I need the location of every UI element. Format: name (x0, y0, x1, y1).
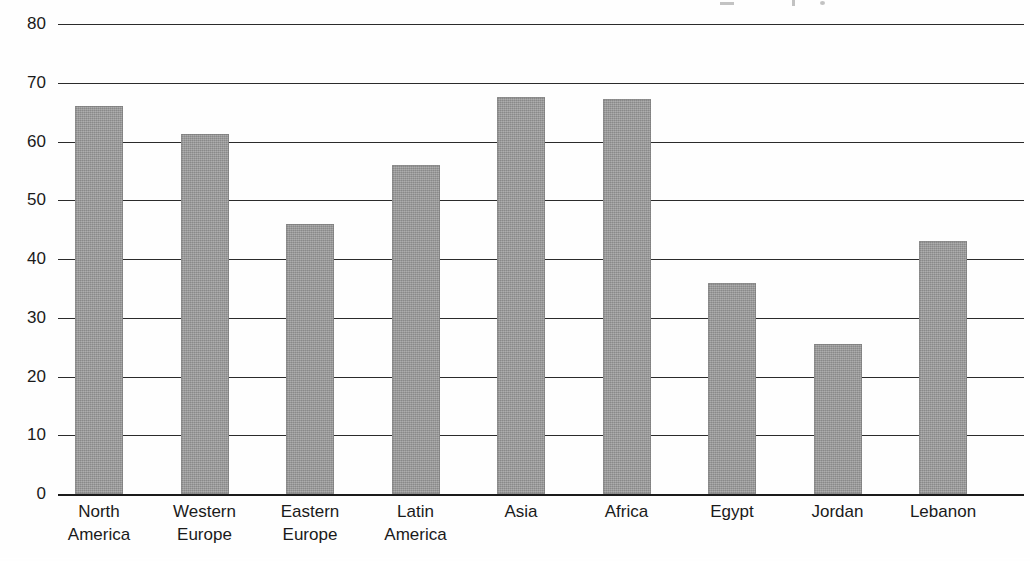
x-tick-label-line1: Jordan (812, 502, 864, 521)
y-tick-label-10: 10 (4, 426, 46, 443)
x-tick-label: Africa (567, 500, 687, 523)
scan-mark-dash (720, 2, 734, 5)
bar (286, 224, 334, 494)
scan-mark-dot (820, 1, 825, 5)
x-tick-label-line2: Europe (145, 523, 265, 546)
bar (181, 134, 229, 494)
y-tick-label-40: 40 (4, 250, 46, 267)
x-tick-label: Asia (461, 500, 581, 523)
x-tick-label-line1: Latin (397, 502, 434, 521)
bar-chart: 01020304050607080 NorthAmericaWesternEur… (0, 0, 1030, 561)
bars-layer (58, 24, 1024, 494)
scan-artifact-marks (700, 0, 940, 10)
x-axis-category-labels: NorthAmericaWesternEuropeEasternEuropeLa… (58, 500, 1024, 558)
x-tick-label: Egypt (672, 500, 792, 523)
y-tick-label-60: 60 (4, 133, 46, 150)
y-axis: 01020304050607080 (0, 24, 46, 494)
y-tick-label-80: 80 (4, 15, 46, 32)
scan-mark-tick (792, 0, 795, 6)
x-tick-label-line1: Egypt (710, 502, 753, 521)
x-tick-label: EasternEurope (250, 500, 370, 546)
y-tick-label-30: 30 (4, 309, 46, 326)
bar (75, 106, 123, 494)
bar (497, 97, 545, 494)
x-tick-label-line1: Lebanon (910, 502, 976, 521)
y-tick-label-50: 50 (4, 191, 46, 208)
y-tick-label-20: 20 (4, 368, 46, 385)
bottom-edge (0, 558, 1030, 559)
x-tick-label: Jordan (778, 500, 898, 523)
x-tick-label: LatinAmerica (356, 500, 476, 546)
bar (919, 241, 967, 494)
x-tick-label-line2: America (356, 523, 476, 546)
x-tick-label-line1: Eastern (281, 502, 340, 521)
bar (814, 344, 862, 494)
x-tick-label-line1: Africa (605, 502, 648, 521)
x-tick-label-line1: Asia (504, 502, 537, 521)
gridline-0 (58, 494, 1024, 496)
bar (603, 99, 651, 494)
x-tick-label: NorthAmerica (39, 500, 159, 546)
y-tick-label-70: 70 (4, 74, 46, 91)
bar (392, 165, 440, 494)
x-tick-label-line1: Western (173, 502, 236, 521)
x-tick-label-line1: North (78, 502, 120, 521)
x-tick-label-line2: Europe (250, 523, 370, 546)
x-tick-label: Lebanon (883, 500, 1003, 523)
x-tick-label-line2: America (39, 523, 159, 546)
x-tick-label: WesternEurope (145, 500, 265, 546)
bar (708, 283, 756, 495)
